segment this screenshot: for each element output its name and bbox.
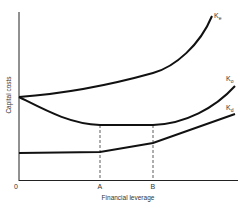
x-axis-title: Financial leverage xyxy=(102,194,155,202)
x-tick-0: 0 xyxy=(14,183,18,190)
kd-label: Kd xyxy=(226,104,234,113)
x-tick-b: B xyxy=(151,183,156,190)
ke-curve xyxy=(19,16,212,97)
ko-curve xyxy=(19,86,235,125)
kd-curve xyxy=(19,114,235,153)
capital-costs-chart: Ke Ko Kd 0 A B Financial leverage Capita… xyxy=(0,0,244,207)
ko-label: Ko xyxy=(226,75,234,84)
y-axis-title: Capital costs xyxy=(5,76,13,114)
ke-label: Ke xyxy=(214,12,222,21)
x-tick-a: A xyxy=(98,183,103,190)
